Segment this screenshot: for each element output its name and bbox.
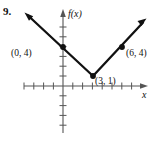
- x-axis-arrowhead: [140, 83, 148, 89]
- point-label-0-4: (0, 4): [11, 48, 32, 58]
- coordinate-plane-graph: [0, 0, 154, 141]
- x-axis-label: x: [142, 89, 146, 100]
- function-right-arrowhead: [138, 19, 147, 27]
- figure-container: 9.: [0, 0, 154, 141]
- point-label-6-4: (6, 4): [126, 48, 147, 58]
- y-axis-arrowhead: [60, 9, 66, 17]
- y-axis-label: f(x): [68, 8, 82, 19]
- point-marker-6-4: [119, 44, 125, 50]
- point-label-3-1: (3, 1): [95, 76, 116, 86]
- point-marker-0-4: [60, 44, 66, 50]
